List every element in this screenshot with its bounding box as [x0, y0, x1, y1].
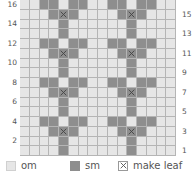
om-cell: [79, 88, 88, 97]
sm-cell: [118, 10, 127, 19]
om-cell: [69, 107, 78, 116]
om-cell: [127, 39, 136, 48]
om-cell: [40, 146, 49, 155]
om-cell: [30, 127, 39, 136]
om-cell: [40, 59, 49, 68]
om-cell: [157, 127, 166, 136]
om-cell: [20, 0, 29, 9]
om-cell: [88, 117, 97, 126]
make-leaf-cell: [59, 10, 68, 19]
om-cell: [147, 10, 156, 19]
om-cell: [108, 88, 117, 97]
sm-cell: [59, 98, 68, 107]
om-cell: [166, 10, 175, 19]
make-leaf-cell: [127, 49, 136, 58]
om-cell: [166, 127, 175, 136]
make-leaf-icon: [59, 88, 68, 97]
om-cell: [20, 29, 29, 38]
om-cell: [157, 146, 166, 155]
om-cell: [49, 29, 58, 38]
row-label-1: 1: [182, 147, 187, 155]
make-leaf-cell: [127, 10, 136, 19]
om-cell: [98, 10, 107, 19]
om-cell: [137, 146, 146, 155]
sm-cell: [69, 49, 78, 58]
legend-label-make-leaf: make leaf: [133, 160, 182, 171]
om-cell: [108, 98, 117, 107]
om-cell: [49, 98, 58, 107]
om-cell: [166, 146, 175, 155]
om-cell: [88, 20, 97, 29]
sm-cell: [118, 117, 127, 126]
om-cell: [30, 49, 39, 58]
sm-cell: [137, 10, 146, 19]
make-leaf-cell: [127, 127, 136, 136]
make-leaf-cell: [59, 88, 68, 97]
row-label-14: 14: [7, 20, 17, 28]
sm-cell: [127, 20, 136, 29]
om-cell: [49, 146, 58, 155]
om-cell: [147, 107, 156, 116]
om-cell: [98, 39, 107, 48]
sm-cell: [69, 39, 78, 48]
om-cell: [98, 117, 107, 126]
sm-cell: [127, 137, 136, 146]
sm-cell: [137, 127, 146, 136]
sm-cell: [127, 59, 136, 68]
om-cell: [40, 29, 49, 38]
sm-cell: [137, 78, 146, 87]
sm-cell: [108, 39, 117, 48]
om-cell: [137, 137, 146, 146]
om-cell: [157, 49, 166, 58]
om-cell: [20, 49, 29, 58]
sm-cell: [49, 127, 58, 136]
om-cell: [49, 137, 58, 146]
om-cell: [59, 0, 68, 9]
om-cell: [98, 107, 107, 116]
sm-cell: [49, 78, 58, 87]
om-cell: [166, 117, 175, 126]
om-cell: [88, 146, 97, 155]
om-cell: [88, 78, 97, 87]
om-cell: [59, 39, 68, 48]
row-label-2: 2: [12, 137, 17, 145]
make-leaf-icon: [59, 10, 68, 19]
om-cell: [30, 59, 39, 68]
sm-cell: [40, 78, 49, 87]
om-cell: [30, 146, 39, 155]
om-cell: [88, 107, 97, 116]
sm-swatch: [70, 161, 80, 171]
om-cell: [108, 107, 117, 116]
make-leaf-icon: [59, 49, 68, 58]
om-cell: [98, 68, 107, 77]
sm-cell: [137, 117, 146, 126]
legend-item-om: om: [6, 160, 37, 171]
om-cell: [20, 127, 29, 136]
om-cell: [118, 59, 127, 68]
om-cell: [157, 0, 166, 9]
sm-cell: [49, 117, 58, 126]
om-cell: [30, 78, 39, 87]
om-cell: [147, 20, 156, 29]
sm-cell: [108, 0, 117, 9]
om-cell: [137, 107, 146, 116]
om-cell: [157, 78, 166, 87]
om-cell: [127, 0, 136, 9]
om-cell: [30, 107, 39, 116]
om-cell: [108, 29, 117, 38]
sm-cell: [40, 0, 49, 9]
om-cell: [69, 59, 78, 68]
om-cell: [118, 98, 127, 107]
om-cell: [157, 29, 166, 38]
om-cell: [40, 127, 49, 136]
om-cell: [88, 68, 97, 77]
om-cell: [98, 127, 107, 136]
om-cell: [137, 20, 146, 29]
om-cell: [40, 68, 49, 77]
om-cell: [30, 98, 39, 107]
sm-cell: [79, 0, 88, 9]
sm-cell: [108, 78, 117, 87]
om-cell: [166, 59, 175, 68]
om-cell: [79, 29, 88, 38]
make-leaf-icon: [127, 88, 136, 97]
